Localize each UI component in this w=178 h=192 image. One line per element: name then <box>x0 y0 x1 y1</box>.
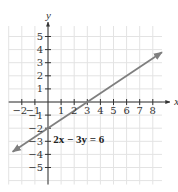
y-tick-label: −3 <box>28 136 43 147</box>
y-tick-label: −2 <box>28 123 43 134</box>
y-tick-label: −1 <box>28 110 43 121</box>
x-tick-label: 1 <box>58 105 64 116</box>
x-tick-label: 8 <box>150 105 156 116</box>
x-axis-title: x <box>173 95 178 107</box>
x-tick-label: 6 <box>123 105 129 116</box>
axes <box>9 22 170 184</box>
x-tick-label: 2 <box>71 105 77 116</box>
y-tick-label: 1 <box>37 83 43 94</box>
y-tick-label: 2 <box>37 70 43 81</box>
x-tick-label: 3 <box>84 105 90 116</box>
y-tick-label: −5 <box>28 162 43 173</box>
y-tick-label: 5 <box>37 31 43 42</box>
y-tick-label: −4 <box>28 149 43 160</box>
x-tick-label: 4 <box>97 105 103 116</box>
equation-label: 2x − 3y = 6 <box>53 133 105 145</box>
y-tick-label: 3 <box>37 57 43 68</box>
y-axis-title: y <box>45 9 51 21</box>
x-tick-label: 5 <box>110 105 116 116</box>
x-tick-label: 7 <box>137 105 143 116</box>
y-tick-label: 4 <box>37 44 43 55</box>
graph-plot: −2−11234567854321−1−2−3−4−5 x y 2x − 3y … <box>0 0 178 192</box>
